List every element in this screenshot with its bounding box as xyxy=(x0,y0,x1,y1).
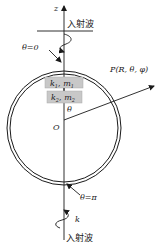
box-k1-m1: k1, m1 xyxy=(45,77,83,89)
z-axis-label: z xyxy=(53,4,59,13)
incident-wave-top-icon xyxy=(60,34,71,52)
theta-pi-arrow xyxy=(67,184,80,195)
point-p-label: P(R, θ, φ) xyxy=(109,65,148,74)
origin-label: O xyxy=(53,123,60,132)
sphere-scattering-diagram: z 入射波 θ=0 k1, m1 k2, m2 θ O P(R, θ, φ) θ… xyxy=(0,0,160,247)
theta-zero-label: θ=0 xyxy=(22,43,39,52)
box-k2-m2: k2, m2 xyxy=(47,91,82,103)
incident-wave-top-label: 入射波 xyxy=(67,18,94,29)
theta-pi-label: θ=π xyxy=(80,193,98,202)
svg-text:k1, m1: k1, m1 xyxy=(50,79,74,89)
svg-text:k2, m2: k2, m2 xyxy=(51,93,75,103)
incident-wave-bottom-label: 入射波 xyxy=(66,232,93,243)
wave-vector-label: k xyxy=(75,215,80,224)
theta-zero-arrow xyxy=(49,50,61,62)
incident-wave-bottom-icon xyxy=(56,210,69,228)
theta-angle-label: θ xyxy=(67,105,72,114)
